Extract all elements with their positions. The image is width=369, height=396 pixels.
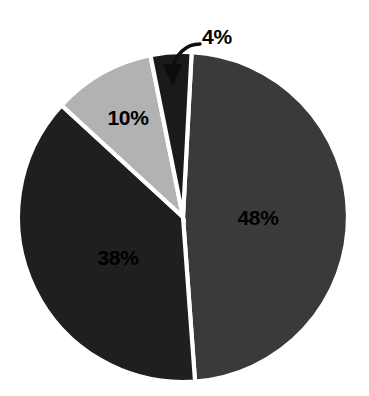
pie-label-38: 38% [97,246,139,269]
pie-slices [18,52,348,382]
pie-label-4: 4% [202,25,232,48]
pie-label-48: 48% [237,206,279,229]
pie-chart: 48% 38% 10% 4% [0,0,369,396]
pie-label-10: 10% [107,106,149,129]
pie-chart-canvas: 48% 38% 10% 4% [0,0,369,396]
